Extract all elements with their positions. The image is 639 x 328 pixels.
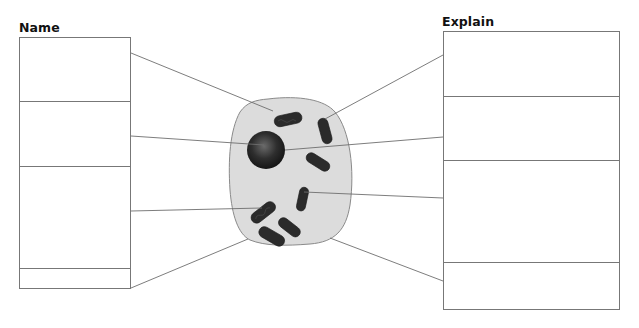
leader-line-name-1 <box>131 53 273 111</box>
cell-diagram <box>0 0 639 328</box>
leader-line-explain-1 <box>325 55 443 119</box>
leader-line-explain-4 <box>330 238 443 281</box>
nucleus <box>247 131 285 169</box>
leader-line-name-4 <box>131 239 248 288</box>
